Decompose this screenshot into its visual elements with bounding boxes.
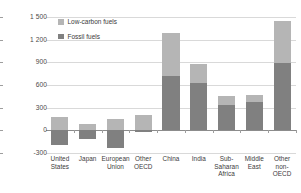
x-axis-category-line: Sub- [213,155,241,163]
x-axis-category-line: United [46,155,74,163]
bar-group[interactable] [190,17,207,153]
x-axis-tick-mark [185,130,186,133]
y-axis-tick-mark [0,40,3,41]
x-axis-category-line: China [157,155,185,163]
x-axis-category-line: Union [102,163,130,171]
y-axis-tick-label: 1 200 [3,36,47,43]
legend-swatch-icon [58,19,64,25]
legend-item[interactable]: Fossil fuels [58,33,148,41]
chart-legend: Low-carbon fuelsFossil fuels [58,18,148,47]
y-axis-tick-mark [0,62,3,63]
y-axis-tick-label: 900 [3,58,47,65]
gridline [46,153,296,154]
bar-segment-fossil-fuels[interactable] [218,105,235,130]
x-axis-category-line: India [185,155,213,163]
x-axis-category-line: Other [268,155,296,163]
x-axis-category-line: States [46,163,74,171]
x-axis-category-line: Middle [240,155,268,163]
bar-segment-low-carbon-fuels[interactable] [274,21,291,63]
x-axis-labels: UnitedStatesJapanEuropeanUnionOtherOECDC… [46,155,296,191]
x-axis-category-label: Japan [74,155,102,163]
x-axis-category-label: India [185,155,213,163]
bar-segment-low-carbon-fuels[interactable] [79,124,96,131]
x-axis-category-label: Othernon-OECD [268,155,296,178]
x-axis-category-label: OtherOECD [129,155,157,170]
x-axis-category-line: East [240,163,268,171]
bar-segment-fossil-fuels[interactable] [51,130,68,144]
bar-segment-fossil-fuels[interactable] [246,102,263,130]
x-axis-category-label: China [157,155,185,163]
x-axis-category-line: OECD [129,163,157,171]
y-axis-tick-mark [0,130,3,131]
bar-segment-low-carbon-fuels[interactable] [107,119,124,130]
x-axis-category-label: UnitedStates [46,155,74,170]
x-axis-tick-mark [240,130,241,133]
x-axis-tick-mark [102,130,103,133]
y-axis-tick-label: 0 [3,126,47,133]
x-axis-tick-mark [296,130,297,133]
bar-segment-low-carbon-fuels[interactable] [162,33,179,76]
bar-group[interactable] [246,17,263,153]
bar-segment-low-carbon-fuels[interactable] [246,95,263,103]
bar-chart: Mtoe 1 5001 2009006003000-300 UnitedStat… [0,0,301,193]
bar-group[interactable] [218,17,235,153]
legend-swatch-icon [58,34,64,40]
x-axis-category-line: non-OECD [268,163,296,178]
x-axis-category-label: Sub-SaharanAfrica [213,155,241,178]
x-axis-category-line: Saharan [213,163,241,171]
y-axis-tick-label: 300 [3,104,47,111]
y-axis-tick-mark [0,17,3,18]
x-axis-tick-mark [74,130,75,133]
y-axis-tick-mark [0,108,3,109]
x-axis-category-label: MiddleEast [240,155,268,170]
bar-segment-fossil-fuels[interactable] [79,130,96,138]
bar-segment-fossil-fuels[interactable] [135,130,152,132]
y-axis-tick-label: 600 [3,81,47,88]
bar-segment-fossil-fuels[interactable] [107,130,124,148]
x-axis-tick-mark [268,130,269,133]
x-axis-category-line: Other [129,155,157,163]
y-axis-tick-label: 1 500 [3,13,47,20]
legend-item-label: Fossil fuels [68,33,101,41]
legend-item[interactable]: Low-carbon fuels [58,18,148,26]
bar-group[interactable] [274,17,291,153]
x-axis-category-line: Africa [213,170,241,178]
bar-segment-low-carbon-fuels[interactable] [218,96,235,105]
y-axis-tick-mark [0,85,3,86]
bar-segment-fossil-fuels[interactable] [162,76,179,130]
bar-segment-fossil-fuels[interactable] [190,83,207,130]
x-axis-category-line: European [102,155,130,163]
x-axis-category-label: EuropeanUnion [102,155,130,170]
x-axis-tick-mark [129,130,130,133]
bar-group[interactable] [162,17,179,153]
x-axis-category-line: Japan [74,155,102,163]
legend-item-label: Low-carbon fuels [68,18,118,26]
x-axis-tick-mark [157,130,158,133]
y-axis-tick-mark [0,153,3,154]
bar-segment-low-carbon-fuels[interactable] [135,115,152,130]
x-axis-tick-mark [213,130,214,133]
bar-segment-fossil-fuels[interactable] [274,63,291,130]
bar-segment-low-carbon-fuels[interactable] [51,117,68,131]
bar-segment-low-carbon-fuels[interactable] [190,64,207,84]
y-axis-tick-label: -300 [3,149,47,156]
